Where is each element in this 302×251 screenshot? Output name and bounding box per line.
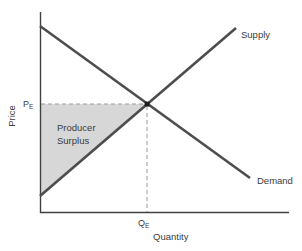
equilibrium-quantity-subscript: E (145, 222, 150, 229)
equilibrium-quantity-letter: Q (138, 218, 145, 228)
supply-label: Supply (241, 29, 270, 40)
producer-surplus-label-line2: Surplus (57, 135, 89, 146)
equilibrium-price-subscript: E (29, 103, 34, 110)
producer-surplus-figure: Supply Demand Price Quantity PE QE Produ… (0, 0, 302, 251)
demand-label: Demand (257, 175, 293, 186)
quantity-axis-label: Quantity (153, 231, 189, 242)
producer-surplus-label-line1: Producer (57, 122, 96, 133)
equilibrium-point (145, 102, 150, 107)
price-axis-label: Price (6, 105, 17, 127)
equilibrium-price-label: PE (23, 99, 34, 110)
equilibrium-quantity-label: QE (138, 218, 150, 229)
supply-demand-diagram: Supply Demand Price Quantity PE QE Produ… (0, 0, 302, 251)
